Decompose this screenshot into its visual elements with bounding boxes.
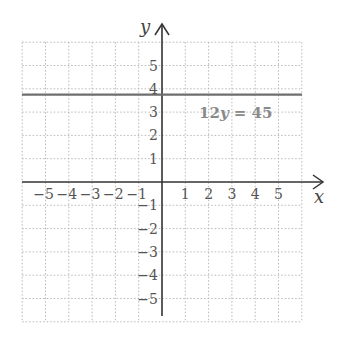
y-tick-label: 2 (149, 127, 158, 143)
x-tick-label: 5 (274, 186, 283, 202)
x-tick-label: −5 (33, 186, 54, 202)
y-tick-label: 3 (149, 104, 158, 120)
y-tick-label: 5 (149, 58, 158, 74)
x-tick-label: 4 (251, 186, 260, 202)
y-tick-label: −1 (137, 197, 158, 213)
x-tick-label: 1 (181, 186, 190, 202)
equation-label: 12y = 45 (199, 104, 272, 122)
x-tick-label: 3 (227, 186, 236, 202)
x-tick-label: −2 (103, 186, 124, 202)
y-tick-label: −5 (137, 291, 158, 307)
x-tick-label: −4 (56, 186, 77, 202)
y-tick-label: −3 (137, 244, 158, 260)
y-axis-label: y (139, 16, 151, 37)
y-tick-label: 1 (149, 151, 158, 167)
x-tick-label: −3 (80, 186, 101, 202)
coordinate-plane: −5−4−3−2−11234554321−1−2−3−4−5 x y 12y =… (0, 0, 344, 338)
y-tick-label: −4 (137, 267, 158, 283)
x-axis-label: x (314, 186, 324, 207)
y-tick-label: −2 (137, 221, 158, 237)
y-tick-label: 4 (149, 81, 158, 97)
x-tick-label: 2 (204, 186, 213, 202)
